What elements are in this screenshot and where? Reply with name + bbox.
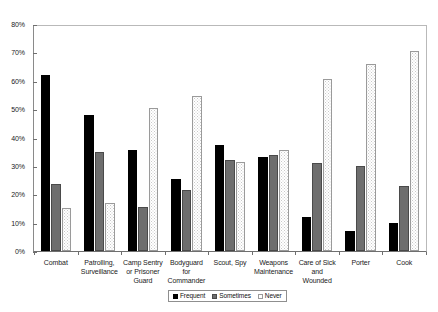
y-axis-tick-mark xyxy=(33,82,37,83)
bar-frequent xyxy=(41,75,51,251)
legend-swatch-frequent-icon xyxy=(173,294,178,299)
y-axis: 0%10%20%30%40%50%60%70%80% xyxy=(0,25,31,252)
x-axis-category-label-line: Patrolling, xyxy=(78,258,122,267)
y-axis-tick-mark xyxy=(33,53,37,54)
x-axis-category-label: Porter xyxy=(339,258,383,267)
x-axis-category-label-line: Bodyguard xyxy=(165,258,209,267)
bar-frequent xyxy=(84,115,94,251)
legend-item-never[interactable]: Never xyxy=(258,292,282,300)
bar-group xyxy=(34,26,78,251)
y-axis-tick-mark xyxy=(33,167,37,168)
bar-never xyxy=(192,96,202,251)
bar-never xyxy=(366,64,376,251)
x-axis-category-label: Care of SickandWounded xyxy=(295,258,339,286)
y-axis-tick-mark xyxy=(33,25,37,26)
x-axis-tick-mark xyxy=(426,252,427,255)
bar-sometimes xyxy=(356,166,366,251)
bar-group xyxy=(208,26,252,251)
bar-frequent xyxy=(389,223,399,251)
bar-sometimes xyxy=(312,163,322,251)
x-axis-category-label-line: Surveillance xyxy=(78,267,122,276)
x-axis-category-label-line: for xyxy=(165,267,209,276)
x-axis-tick-mark xyxy=(121,252,122,255)
bar-never xyxy=(279,150,289,251)
bar-sometimes xyxy=(182,190,192,251)
bar-group xyxy=(165,26,209,251)
y-axis-tick-label: 10% xyxy=(11,220,25,228)
y-axis-tick-label: 50% xyxy=(11,106,25,114)
bar-frequent xyxy=(302,217,312,251)
bar-group xyxy=(339,26,383,251)
y-axis-tick-mark xyxy=(33,110,37,111)
x-axis-tick-mark xyxy=(78,252,79,255)
legend-label: Never xyxy=(265,292,282,300)
bar-never xyxy=(62,208,72,251)
bar-chart: 0%10%20%30%40%50%60%70%80% CombatPatroll… xyxy=(0,0,438,312)
bar-frequent xyxy=(258,157,268,251)
x-axis-category-label-line: Maintenance xyxy=(252,267,296,276)
y-axis-tick-label: 80% xyxy=(11,21,25,29)
x-axis-tick-mark xyxy=(208,252,209,255)
x-axis-tick-mark xyxy=(252,252,253,255)
y-axis-tick-label: 60% xyxy=(11,78,25,86)
legend: FrequentSometimesNever xyxy=(168,290,287,302)
x-axis-category-label-line: or Prisoner xyxy=(121,267,165,276)
y-axis-tick-label: 40% xyxy=(11,135,25,143)
bar-group xyxy=(78,26,122,251)
x-axis-category-label: Cook xyxy=(382,258,426,267)
bars-layer xyxy=(34,26,426,251)
bar-never xyxy=(410,51,420,251)
bar-sometimes xyxy=(225,160,235,251)
bar-sometimes xyxy=(51,184,61,251)
y-axis-tick-mark xyxy=(33,224,37,225)
x-axis-category-label: Scout, Spy xyxy=(208,258,252,267)
y-axis-tick-label: 0% xyxy=(15,248,25,256)
bar-never xyxy=(149,108,159,251)
legend-label: Frequent xyxy=(180,292,205,300)
x-axis-category-label-line: Wounded xyxy=(295,276,339,285)
x-axis-category-label-line: Care of Sick xyxy=(295,258,339,267)
x-axis-category-label: WeaponsMaintenance xyxy=(252,258,296,276)
y-axis-tick-mark xyxy=(33,252,37,253)
x-axis-category-label: Combat xyxy=(34,258,78,267)
y-axis-tick-label: 30% xyxy=(11,163,25,171)
legend-item-sometimes[interactable]: Sometimes xyxy=(212,292,251,300)
legend-label: Sometimes xyxy=(219,292,251,300)
legend-swatch-sometimes-icon xyxy=(212,294,217,299)
x-axis-tick-mark xyxy=(295,252,296,255)
bar-frequent xyxy=(171,179,181,251)
y-axis-tick-mark xyxy=(33,139,37,140)
y-axis-tick-mark xyxy=(33,195,37,196)
bar-group xyxy=(121,26,165,251)
bar-group xyxy=(382,26,426,251)
x-axis-tick-mark xyxy=(339,252,340,255)
bar-group xyxy=(295,26,339,251)
x-axis-category-label: Patrolling,Surveillance xyxy=(78,258,122,276)
x-axis-category-label-line: Combat xyxy=(34,258,78,267)
x-axis-category-label-line: Cook xyxy=(382,258,426,267)
bar-frequent xyxy=(345,231,355,251)
x-axis-tick-mark xyxy=(382,252,383,255)
x-axis-category-label-line: Porter xyxy=(339,258,383,267)
x-axis-category-label-line: Guard xyxy=(121,276,165,285)
x-axis-category-label-line: Scout, Spy xyxy=(208,258,252,267)
x-axis-category-label: Camp Sentryor PrisonerGuard xyxy=(121,258,165,286)
bar-group xyxy=(252,26,296,251)
bar-sometimes xyxy=(95,152,105,251)
x-axis-category-label-line: Weapons xyxy=(252,258,296,267)
bar-never xyxy=(236,162,246,251)
legend-swatch-never-icon xyxy=(258,294,263,299)
x-axis-category-label: BodyguardforCommander xyxy=(165,258,209,286)
legend-item-frequent[interactable]: Frequent xyxy=(173,292,205,300)
bar-sometimes xyxy=(138,207,148,251)
y-axis-tick-label: 70% xyxy=(11,49,25,57)
bar-sometimes xyxy=(269,155,279,251)
bar-sometimes xyxy=(399,186,409,251)
bar-frequent xyxy=(128,150,138,251)
bar-never xyxy=(323,79,333,251)
x-axis-tick-mark xyxy=(165,252,166,255)
x-axis-category-label-line: Camp Sentry xyxy=(121,258,165,267)
bar-never xyxy=(105,203,115,251)
x-axis-category-label-line: Commander xyxy=(165,276,209,285)
bar-frequent xyxy=(215,145,225,251)
